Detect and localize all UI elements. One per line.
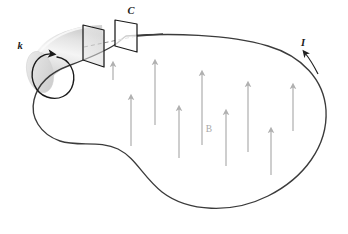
label-c: C	[127, 5, 135, 16]
field-arrows	[113, 62, 293, 175]
label-k: k	[17, 40, 23, 51]
diagram-canvas: k C I B	[0, 0, 348, 234]
end-cap-panel	[83, 25, 104, 67]
label-b: B	[206, 124, 212, 134]
current-direction-arrow	[305, 53, 318, 74]
physics-diagram-figure: k C I B	[0, 0, 348, 234]
label-i: I	[300, 37, 306, 48]
surface-c-panel	[115, 20, 137, 52]
